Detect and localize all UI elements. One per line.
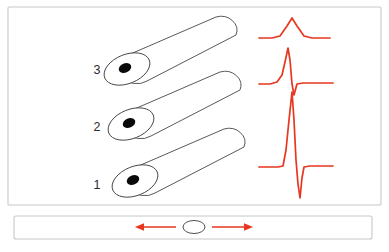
bar-center-ellipse: [183, 221, 205, 234]
fiber-label-1: 1: [94, 178, 101, 192]
figure-canvas: 3 2 1: [0, 0, 389, 252]
bar-panel-group: [14, 216, 372, 239]
figure-root: 3 2 1: [0, 0, 389, 252]
fiber-label-3: 3: [94, 63, 101, 77]
fiber-label-2: 2: [94, 120, 101, 134]
